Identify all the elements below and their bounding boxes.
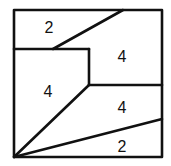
upper-diagonal-line: [53, 10, 123, 49]
region-label-middle-right: 4: [118, 99, 127, 116]
area-diagram: 2 4 4 4 2: [0, 0, 171, 166]
shallow-diagonal-line: [14, 119, 162, 157]
region-label-bottom-right: 2: [118, 138, 127, 155]
region-label-top-left: 2: [45, 19, 54, 36]
region-label-middle-left: 4: [44, 83, 53, 100]
region-label-top-right: 4: [118, 48, 127, 65]
